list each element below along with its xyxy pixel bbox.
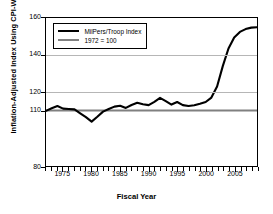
x-axis-title: Fiscal Year <box>0 192 273 201</box>
legend-entry-milpers-troop-index: MilPers/Troop Index <box>58 27 141 36</box>
gridline-y-120 <box>46 92 257 93</box>
chart-figure: Inflation-Adjusted Index Using CPI-W 801… <box>0 0 273 214</box>
legend: MilPers/Troop Index 1972 = 100 <box>53 23 147 49</box>
x-tick-label-1995: 1995 <box>162 170 192 177</box>
x-tick-label-1975: 1975 <box>47 170 77 177</box>
x-tick-label-1985: 1985 <box>105 170 135 177</box>
legend-label-milpers-troop-index: MilPers/Troop Index <box>84 28 141 35</box>
legend-swatch-milpers-troop-index <box>58 30 79 32</box>
legend-entry-1972-baseline: 1972 = 100 <box>58 36 141 45</box>
x-tick-label-2000: 2000 <box>191 170 221 177</box>
plot-area: MilPers/Troop Index 1972 = 100 <box>45 17 258 167</box>
x-tick-mark-1972 <box>45 167 46 171</box>
legend-swatch-1972-baseline <box>58 39 79 41</box>
gridline-y-140 <box>46 55 257 56</box>
x-tick-label-2005: 2005 <box>220 170 250 177</box>
y-tick-label-120: 120 <box>17 88 41 95</box>
x-tick-label-1980: 1980 <box>76 170 106 177</box>
x-tick-mark-2009 <box>258 167 259 171</box>
y-tick-label-160: 160 <box>17 13 41 20</box>
x-tick-mark-2008 <box>252 167 253 171</box>
y-axis-title: Inflation-Adjusted Index Using CPI-W <box>9 0 18 142</box>
y-tick-label-140: 140 <box>17 50 41 57</box>
y-tick-label-110: 110 <box>17 106 41 113</box>
y-tick-label-80: 80 <box>17 163 41 170</box>
x-tick-label-1990: 1990 <box>134 170 164 177</box>
legend-label-1972-baseline: 1972 = 100 <box>84 37 116 44</box>
